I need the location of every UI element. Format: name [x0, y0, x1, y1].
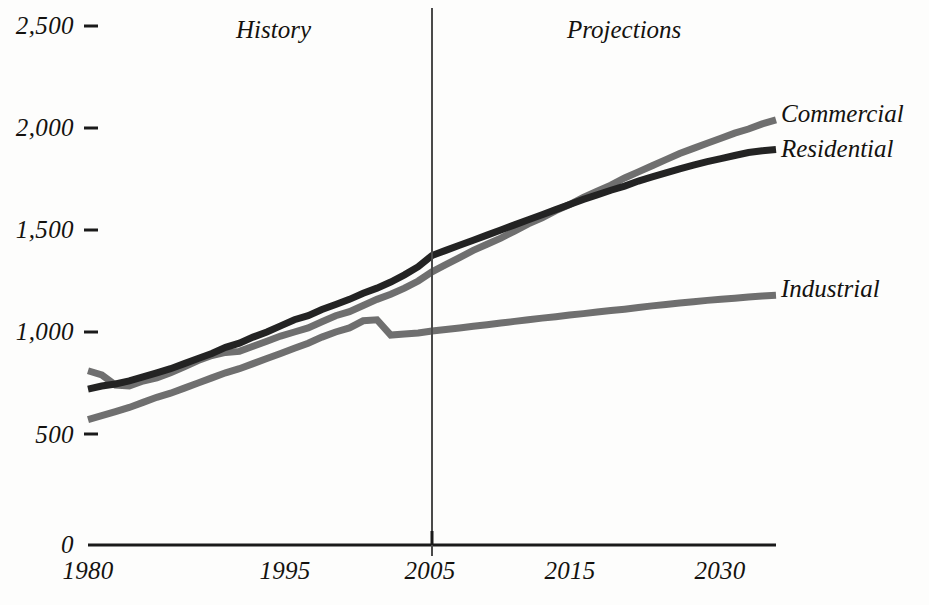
x-tick-label-1980: 1980	[28, 557, 148, 585]
annotation-projections: Projections	[567, 16, 681, 44]
y-tick-label-1500: 1,500	[0, 216, 74, 244]
series-label-residential: Residential	[781, 135, 893, 163]
chart-container: 2,500 2,000 1,500 1,000 500 0 1980 1995 …	[0, 0, 929, 605]
annotation-history: History	[236, 16, 311, 44]
series-label-industrial: Industrial	[781, 275, 880, 303]
series-label-commercial: Commercial	[781, 100, 904, 128]
y-tick-label-2500: 2,500	[0, 12, 74, 40]
y-tick-label-500: 500	[0, 421, 74, 449]
x-tick-label-2015: 2015	[510, 557, 630, 585]
x-tick-label-2005: 2005	[370, 557, 490, 585]
axis-layer	[88, 8, 776, 556]
x-tick-label-2030: 2030	[660, 557, 780, 585]
y-tick-label-2000: 2,000	[0, 114, 74, 142]
y-tick-label-0: 0	[0, 531, 74, 559]
x-tick-label-1995: 1995	[225, 557, 345, 585]
y-tick-label-1000: 1,000	[0, 318, 74, 346]
